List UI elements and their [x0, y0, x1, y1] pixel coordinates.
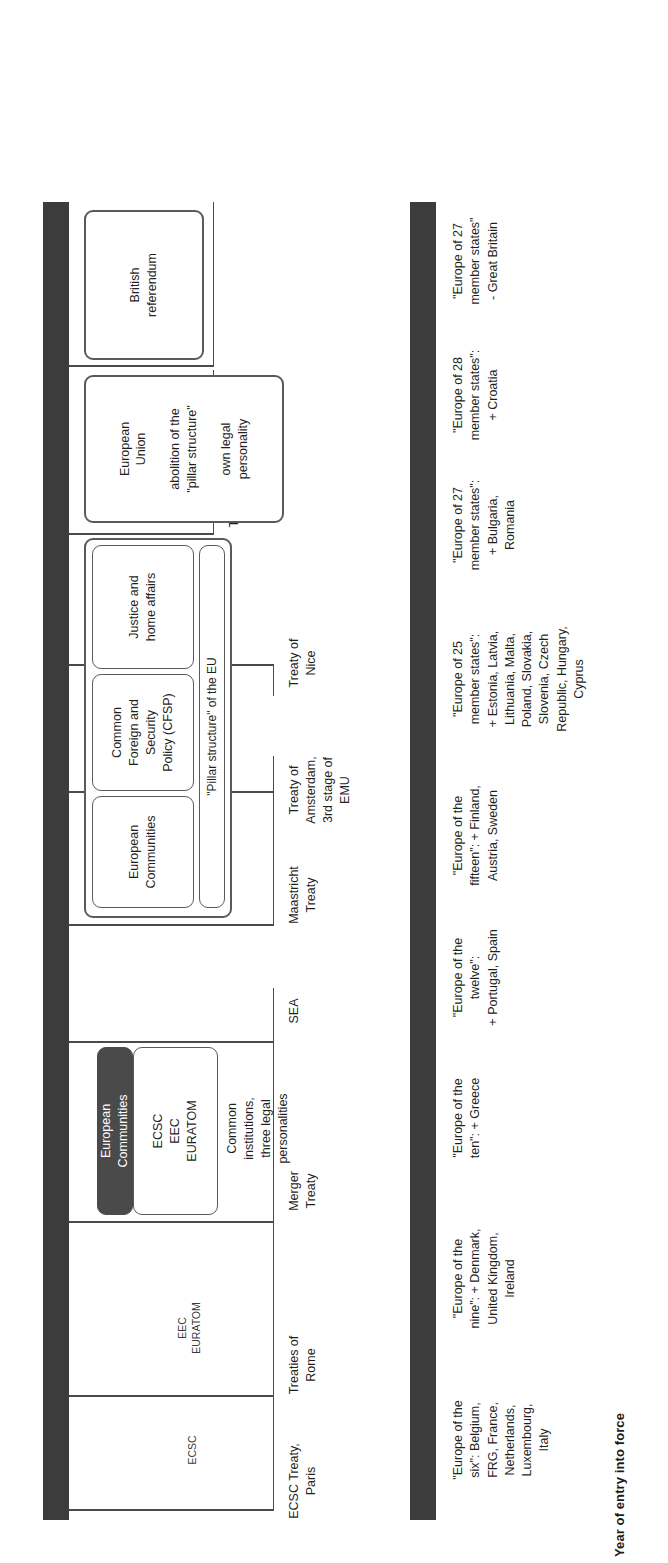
rule-1999: [273, 791, 274, 823]
enlargement-1973-nine: "Europe of the nine": + Denmark, United …: [450, 1196, 519, 1361]
enlargement-2004-25: "Europe of 25 member states": + Estonia,…: [450, 595, 588, 763]
treaty-label-amsterdam: Treaty of Amsterdam, 3rd stage of EMU: [286, 729, 354, 851]
enlargement-2007-27: "Europe of 27 member states": + Bulgaria…: [450, 455, 519, 595]
entity-european-union: European Union abolition of the "pillar …: [84, 375, 284, 523]
entity-eec-euratom: EEC EURATOM: [175, 1268, 203, 1388]
year-label-1952: 1952: [89, 1477, 109, 1512]
entity-british-referendum: British referendum: [84, 210, 204, 360]
tick-1958: [69, 1395, 274, 1397]
rule-1987: [273, 988, 274, 1043]
page-title: Year of entry into force: [612, 1413, 627, 1557]
treaty-label-maastricht: Maastricht Treaty: [286, 835, 320, 955]
enlargements-timeline-axis: 1973 1981 1986 1995 2004 2007 2013 2020: [410, 202, 436, 1520]
tick-1952: [69, 1509, 274, 1511]
enlargement-1995-fifteen: "Europe of the fifteen": + Finland, Aust…: [450, 758, 502, 913]
rule-2020: [213, 202, 214, 367]
rule-1993: [273, 756, 274, 926]
pillar-3-justice-home-affairs: Justice and home affairs: [92, 545, 194, 669]
treaty-label-rome: Treaties of Rome: [286, 1305, 320, 1425]
year-label-1958: 1958: [89, 1362, 109, 1397]
entity-european-communities-header: European Communities: [97, 1047, 133, 1215]
pillar-1-european-communities: European Communities: [92, 796, 194, 908]
enlargement-1986-twelve: "Europe of the twelve": + Portugal, Spai…: [450, 905, 502, 1050]
treaty-label-ecsc: ECSC Treaty, Paris: [286, 1421, 320, 1541]
enlargement-1952-six: "Europe of the six": Belgium, FRG, Franc…: [450, 1365, 554, 1515]
tick-1993: [69, 924, 274, 926]
rule-1958: [273, 1217, 274, 1397]
enlargement-2013-28: "Europe of 28 member states": + Croatia: [450, 325, 502, 465]
tick-2020: [69, 365, 214, 367]
pillar-2-cfsp: Common Foreign and Security Policy (CFSP…: [92, 674, 194, 791]
treaty-label-nice: Treaty of Nice: [286, 603, 320, 723]
diagram-stage: Year of entry into force 1952 1958 1967 …: [0, 0, 668, 1563]
year-label-1987: 1987: [89, 1007, 109, 1042]
enlargement-1981-ten: "Europe of the ten": + Greece: [450, 1048, 485, 1188]
enlargement-2020-27: "Europe of 27 member states" - Great Bri…: [450, 191, 502, 331]
treaties-timeline-axis: 1952 1958 1967 1987 1993 1999 2003 2009 …: [43, 202, 69, 1520]
entity-merger-note: Common institutions, three legal persona…: [224, 1046, 292, 1211]
tick-2009: [69, 533, 214, 535]
rule-2003: [273, 664, 274, 696]
entity-merged-members: ECSC EEC EURATOM: [133, 1047, 218, 1215]
entity-ecsc: ECSC: [185, 1395, 199, 1505]
pillar-structure-label: "Pillar structure" of the EU: [199, 545, 225, 908]
tick-1967: [69, 1221, 274, 1223]
tick-1987: [69, 1041, 274, 1043]
